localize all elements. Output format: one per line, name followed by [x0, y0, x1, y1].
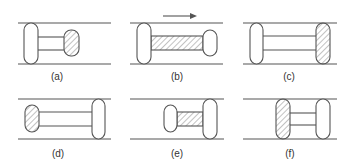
- panel-label-b: (b): [171, 71, 183, 82]
- front-clamp: [203, 99, 217, 139]
- front-clamp: [203, 30, 217, 56]
- panel-label-a: (a): [51, 71, 63, 82]
- body-contracting: [177, 112, 203, 126]
- rear-clamp-active: [276, 99, 290, 139]
- panel-b: [130, 23, 223, 64]
- panel-a: [18, 23, 111, 64]
- rear-clamp: [164, 105, 177, 132]
- panel-d: [18, 99, 111, 139]
- body-extending: [151, 36, 203, 50]
- front-clamp-active: [64, 30, 79, 56]
- front-clamp: [316, 99, 330, 139]
- panel-e: [130, 99, 224, 139]
- rear-clamp: [250, 23, 263, 64]
- panel-c: [243, 23, 337, 64]
- rear-clamp-active: [25, 105, 39, 132]
- rear-clamp: [24, 23, 38, 64]
- panel-label-f: (f): [285, 148, 294, 159]
- panel-label-e: (e): [171, 148, 183, 159]
- panel-label-d: (d): [52, 148, 64, 159]
- front-clamp-active: [316, 23, 330, 64]
- direction-arrow-icon: [163, 13, 197, 19]
- panel-label-c: (c): [283, 71, 295, 82]
- rear-clamp: [137, 23, 151, 64]
- inchworm-diagram: (a) (b) (c) (d) (e) (f): [0, 0, 353, 166]
- panel-f: [243, 99, 337, 139]
- front-clamp: [92, 99, 105, 139]
